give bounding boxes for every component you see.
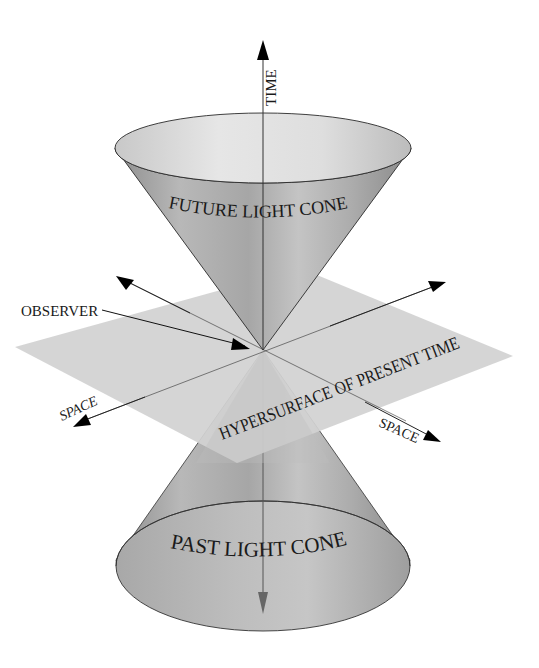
- observer-label: OBSERVER: [21, 303, 98, 319]
- space-arrow-lower-right: [423, 430, 441, 442]
- space-arrow-upper-left: [116, 276, 134, 290]
- space-label-left: SPACE: [57, 393, 100, 424]
- space-arrow-upper-right: [428, 281, 446, 292]
- light-cone-diagram: PAST LIGHT CONE FUTURE LIGHT CONE TIME O…: [0, 0, 539, 668]
- time-axis-label: TIME: [263, 69, 279, 106]
- time-arrow-icon: [257, 40, 269, 60]
